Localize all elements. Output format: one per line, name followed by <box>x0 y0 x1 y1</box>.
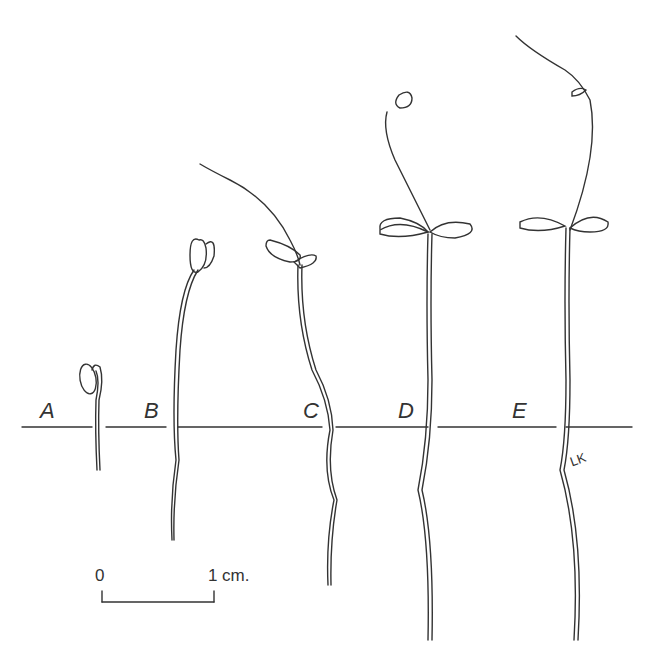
scale-start-label: 0 <box>95 566 104 586</box>
scale-end-label: 1 <box>208 566 217 586</box>
seedling-e <box>516 36 608 640</box>
stage-label-d: D <box>398 398 414 424</box>
stage-label-c: C <box>303 398 319 424</box>
seedling-d <box>380 92 472 640</box>
seedling-drawing <box>0 0 648 649</box>
stage-label-b: B <box>144 398 159 424</box>
stage-label-a: A <box>40 398 55 424</box>
seedling-a <box>78 363 102 470</box>
stage-label-e: E <box>512 398 527 424</box>
seedling-c <box>200 164 337 585</box>
seedling-b <box>172 239 215 540</box>
scale-unit-label: cm. <box>222 566 249 586</box>
scale-bar <box>102 591 214 602</box>
